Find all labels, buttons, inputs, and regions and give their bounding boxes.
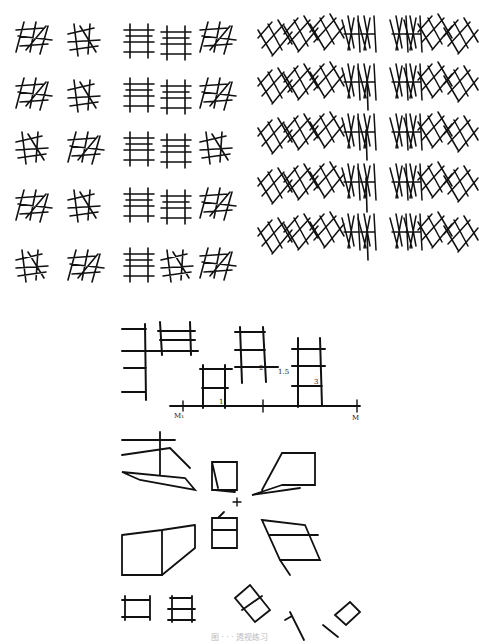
svg-text:2: 2 (259, 364, 263, 372)
svg-text:M: M (352, 414, 359, 422)
svg-text:M₁: M₁ (174, 412, 184, 420)
panel-top-left (16, 22, 236, 282)
svg-text:1.5: 1.5 (278, 368, 289, 376)
panel-vanishing-scale: M₁ M 1 2 1.5 3 (122, 322, 360, 422)
panel-perspective-boxes (122, 432, 320, 575)
figure-caption: 图 · · · 透视练习 (0, 631, 479, 642)
sketch-figure: M₁ M 1 2 1.5 3 (0, 0, 479, 644)
panel-top-right (258, 14, 478, 260)
svg-text:3: 3 (314, 378, 318, 386)
svg-text:1: 1 (219, 398, 223, 406)
